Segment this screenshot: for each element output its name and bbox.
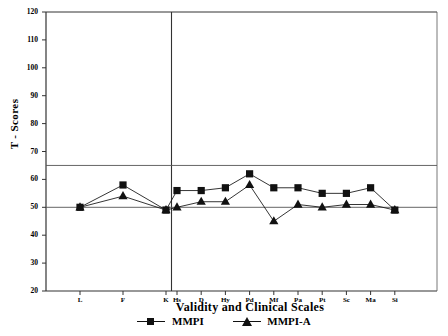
legend-label-mmpi: MMPI — [172, 315, 204, 327]
y-tick-50: 50 — [12, 202, 38, 211]
x-tick-l: L — [65, 296, 95, 304]
chart-legend: MMPI MMPI-A — [0, 314, 448, 327]
triangle-marker-icon — [233, 317, 261, 326]
x-tick-f: F — [108, 296, 138, 304]
y-tick-110: 110 — [12, 35, 38, 44]
mmpi-profile-chart: T - Scores Validity and Clinical Scales … — [0, 0, 448, 336]
y-tick-40: 40 — [12, 230, 38, 239]
y-tick-90: 90 — [12, 91, 38, 100]
y-tick-70: 70 — [12, 147, 38, 156]
plot-area — [0, 0, 448, 336]
legend-item-mmpi-a: MMPI-A — [233, 314, 311, 327]
y-tick-30: 30 — [12, 258, 38, 267]
legend-item-mmpi: MMPI — [137, 314, 204, 327]
square-marker-icon — [137, 317, 165, 326]
y-tick-80: 80 — [12, 119, 38, 128]
y-tick-120: 120 — [12, 7, 38, 16]
x-tick-si: Si — [380, 296, 410, 304]
legend-label-mmpi-a: MMPI-A — [267, 315, 310, 327]
y-tick-20: 20 — [12, 286, 38, 295]
y-tick-60: 60 — [12, 174, 38, 183]
y-tick-100: 100 — [12, 63, 38, 72]
